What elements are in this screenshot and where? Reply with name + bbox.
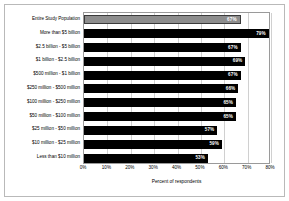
bar-row: 65% [84,96,269,110]
plot-area: 67%79%67%69%67%66%65%65%57%59%53% [83,12,270,164]
bar-value-label: 65% [223,101,233,106]
category-label: Less than $10 million [0,150,83,164]
x-tick-label: 50% [195,166,204,171]
category-label-text: $25 million - $50 million [32,127,80,132]
category-label-text: $500 million - $1 billion [33,72,80,77]
x-tick-label: 0% [80,166,87,171]
bar: 66% [84,84,238,93]
bar-value-label: 59% [209,142,219,147]
bar: 69% [84,57,245,66]
bar-row: 67% [84,68,269,82]
bar-value-label: 66% [226,87,236,92]
gridline [271,13,272,163]
bar-value-label: 79% [256,31,266,36]
x-axis-title: Percent of respondents [83,180,270,185]
bar-row: 67% [84,13,269,27]
bar-row: 53% [84,151,269,165]
bar: 57% [84,126,217,135]
bar-row: 67% [84,41,269,55]
x-tick-label: 60% [219,166,228,171]
bar-row: 66% [84,82,269,96]
x-tick-label: 30% [149,166,158,171]
x-tick-label: 70% [242,166,251,171]
bar-row: 79% [84,27,269,41]
bar-chart: Entire Study PopulationMore than $5 bill… [0,0,289,201]
category-label-text: $100 million - $250 million [27,100,80,105]
x-tick-label: 80% [265,166,274,171]
category-label-text: $50 million - $100 million [29,113,80,118]
bar-value-label: 57% [205,128,215,133]
bar-value-label: 67% [227,18,237,23]
bar-value-label: 53% [195,156,205,161]
bar-value-label: 67% [228,73,238,78]
category-label-text: $1 billion - $2.5 billion [36,58,80,63]
bar: 67% [84,71,241,80]
category-label: $1 billion - $2.5 billion [0,53,83,67]
category-axis-labels: Entire Study PopulationMore than $5 bill… [0,12,83,164]
x-tick-label: 40% [172,166,181,171]
category-label-text: $2.5 billion - $5 billion [36,44,80,49]
bar: 53% [84,154,208,163]
x-tick-label: 20% [125,166,134,171]
bar-row: 57% [84,124,269,138]
bar: 65% [84,112,236,121]
category-label-text: Less than $10 million [37,155,80,160]
bar-value-label: 67% [228,45,238,50]
bar-row: 59% [84,137,269,151]
category-label: $500 million - $1 billion [0,67,83,81]
category-label-text: Entire Study Population [32,17,80,22]
category-label: $2.5 billion - $5 billion [0,40,83,54]
bar-value-label: 65% [223,114,233,119]
bar-rows: 67%79%67%69%67%66%65%65%57%59%53% [84,13,269,163]
category-label-text: More than $5 billion [40,30,80,35]
bar: 59% [84,140,222,149]
bar: 79% [84,29,269,38]
x-tick-label: 10% [102,166,111,171]
category-label: $50 million - $100 million [0,109,83,123]
category-label-text: $10 million - $25 million [32,141,80,146]
category-label: $250 million - $500 million [0,81,83,95]
bar-row: 65% [84,110,269,124]
x-axis-ticks: 0%10%20%30%40%50%60%70%80% [83,166,270,176]
bar: 67% [84,15,241,24]
category-label: $100 million - $250 million [0,95,83,109]
bar: 67% [84,43,241,52]
category-label: $10 million - $25 million [0,136,83,150]
category-label: Entire Study Population [0,12,83,26]
category-label: $25 million - $50 million [0,123,83,137]
bar: 65% [84,98,236,107]
category-label: More than $5 billion [0,26,83,40]
bar-value-label: 69% [233,59,243,64]
category-label-text: $250 million - $500 million [27,86,80,91]
bar-row: 69% [84,54,269,68]
